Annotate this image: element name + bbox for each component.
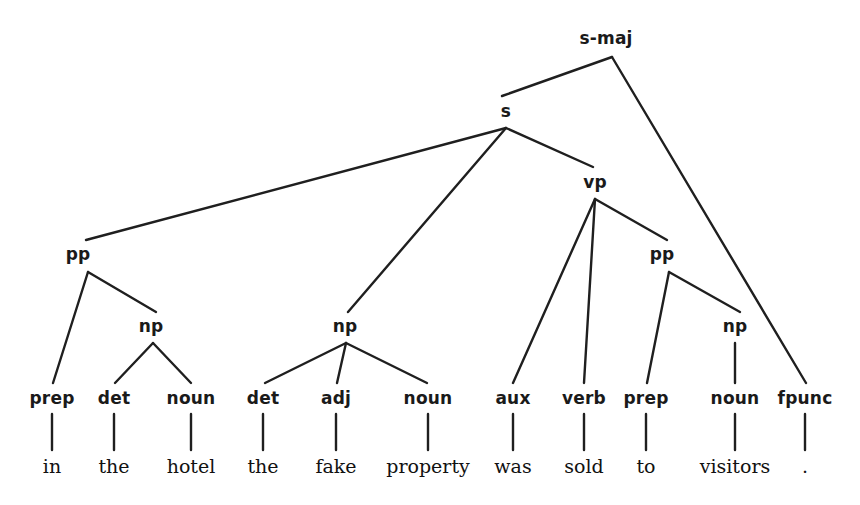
pos-det1: det [98,390,130,407]
edge-vp-to-verb [584,199,595,383]
edge-s-to-np2 [348,128,506,312]
word-w-period: . [802,457,808,476]
word-w-was: was [494,457,531,476]
edge-smaj-to-fpunc [612,57,806,383]
word-w-visitors: visitors [700,457,771,476]
edge-pp2-to-prep2 [647,272,669,383]
edge-vp-to-pp2 [595,199,667,240]
node-np2: np [333,318,358,335]
edge-smaj-to-s [502,57,612,96]
word-w-hotel: hotel [167,457,216,476]
pos-noun1: noun [167,390,216,407]
edge-np1-to-noun1 [153,343,191,383]
pos-aux1: aux [495,390,530,407]
edge-pp1-to-prep1 [53,272,88,383]
pos-noun3: noun [711,390,760,407]
pos-prep1: prep [29,390,74,407]
tree-edges-layer [0,0,860,505]
edge-np1-to-det1 [115,343,153,383]
edge-s-to-pp1 [86,128,506,240]
node-pp2: pp [650,246,675,263]
pos-adj1: adj [321,390,351,407]
word-w-the-2: the [247,457,278,476]
pos-det2: det [247,390,279,407]
word-w-to: to [636,457,655,476]
syntax-tree-canvas: s-majsvpppppnpnpnpprepdetnoundetadjnouna… [0,0,860,505]
edge-pp1-to-np1 [88,272,156,312]
node-np1: np [139,318,164,335]
edge-np2-to-adj1 [337,343,346,383]
pos-fpunc: fpunc [778,390,833,407]
node-pp1: pp [66,246,91,263]
word-w-property: property [386,457,470,476]
edge-s-to-vp [506,128,593,167]
edge-np2-to-det2 [265,343,346,383]
edge-vp-to-aux [513,199,595,383]
node-s: s [501,103,511,120]
edge-pp2-to-np3 [669,272,740,312]
word-w-in: in [43,457,61,476]
node-np3: np [723,318,748,335]
pos-noun2: noun [404,390,453,407]
pos-verb1: verb [562,390,606,407]
word-w-fake: fake [315,457,356,476]
word-w-sold: sold [564,457,603,476]
node-s-maj: s-maj [579,30,632,47]
word-w-the-1: the [98,457,129,476]
edge-np2-to-noun2 [346,343,427,383]
pos-prep2: prep [623,390,668,407]
node-vp: vp [583,174,607,191]
